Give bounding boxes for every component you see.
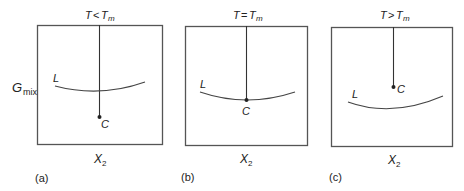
svg-text:T: T [380, 9, 388, 21]
panel-c-title: T > T m [380, 9, 410, 23]
panel-c-point-label: C [397, 83, 405, 95]
panel-b-point-label: C [242, 105, 250, 117]
y-axis-label-sub: mix [23, 87, 37, 97]
panel-a-curve-label: L [53, 72, 59, 84]
panel-a-x-label: X 2 [93, 152, 107, 168]
panel-a-title: T < T m [85, 9, 115, 23]
svg-text:T: T [233, 9, 241, 21]
panel-b-x-label: X 2 [239, 152, 253, 168]
panel-c-caption: (c) [329, 171, 342, 183]
panel-b-curve-label: L [200, 78, 206, 90]
svg-text:2: 2 [248, 159, 253, 168]
gibbs-mixing-diagram: G mix T < T m L C X 2 (a) T = T m L [0, 0, 464, 191]
panel-c-liquid-curve [348, 96, 443, 109]
y-axis-label-main: G [12, 80, 22, 95]
panel-a-caption: (a) [35, 172, 48, 184]
panel-c-x-label: X 2 [387, 153, 401, 169]
svg-text:m: m [403, 14, 410, 23]
panel-b-caption: (b) [181, 171, 194, 183]
panel-a: T < T m L C X 2 (a) [35, 9, 163, 184]
svg-text:>: > [388, 9, 394, 21]
panel-b-solid-point [245, 98, 249, 102]
svg-text:T: T [85, 9, 93, 21]
y-axis-label: G mix [12, 80, 37, 97]
panel-c: T > T m L C X 2 (c) [329, 9, 453, 183]
svg-text:m: m [256, 14, 263, 23]
panel-c-curve-label: L [352, 88, 358, 100]
panel-c-solid-point [392, 85, 396, 89]
svg-text:m: m [108, 14, 115, 23]
panel-a-point-label: C [101, 118, 109, 130]
panel-b-title: T = T m [233, 9, 263, 23]
svg-text:=: = [241, 9, 247, 21]
panel-b: T = T m L C X 2 (b) [181, 9, 308, 183]
svg-text:<: < [93, 9, 99, 21]
svg-text:2: 2 [102, 159, 107, 168]
svg-text:2: 2 [396, 160, 401, 169]
